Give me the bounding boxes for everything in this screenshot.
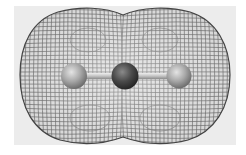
right-atom [167, 64, 192, 89]
center-atom [112, 63, 139, 90]
left-atom [61, 63, 87, 89]
molecule-figure [0, 0, 246, 155]
